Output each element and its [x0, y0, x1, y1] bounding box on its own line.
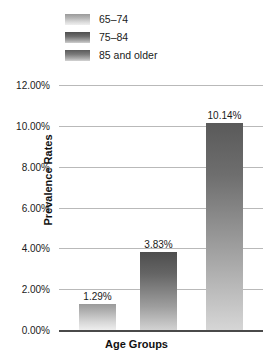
y-tick-label-12: 12.00% [16, 80, 50, 91]
chart-legend: 65–74 75–84 85 and older [65, 11, 245, 65]
legend-item-85-and-older: 85 and older [65, 47, 245, 63]
bar-value-75-84: 3.83% [144, 239, 172, 250]
bar-65-74[interactable] [79, 304, 116, 330]
y-tick-label-2: 2.00% [22, 284, 50, 295]
legend-label-75-84: 75–84 [99, 32, 128, 43]
y-tick-label-8: 8.00% [22, 161, 50, 172]
x-axis-title: Age Groups [0, 338, 273, 350]
legend-item-65-74: 65–74 [65, 11, 245, 27]
y-tick-label-4: 4.00% [22, 243, 50, 254]
bar-series: 1.29% 3.83% 10.14% [66, 85, 256, 330]
legend-swatch-65-74 [65, 14, 90, 25]
y-tick-label-0: 0.00% [22, 325, 50, 336]
y-tick-label-10: 10.00% [16, 120, 50, 131]
legend-swatch-75-84 [65, 32, 90, 43]
legend-label-65-74: 65–74 [99, 14, 128, 25]
bar-75-84[interactable] [140, 252, 177, 330]
y-tick-label-6: 6.00% [22, 202, 50, 213]
legend-label-85-and-older: 85 and older [99, 50, 157, 61]
prevalence-rates-bar-chart: 65–74 75–84 85 and older Prevalence Rate… [0, 0, 273, 359]
bar-value-65-74: 1.29% [83, 291, 111, 302]
legend-item-75-84: 75–84 [65, 29, 245, 45]
bar-85-and-older[interactable] [206, 123, 243, 330]
x-axis-baseline: 0.00% [59, 330, 263, 332]
plot-area: 12.00% 10.00% 8.00% 6.00% 4.00% 2.00% 0.… [66, 85, 256, 330]
legend-swatch-85-and-older [65, 50, 90, 61]
bar-value-85-and-older: 10.14% [208, 110, 242, 121]
